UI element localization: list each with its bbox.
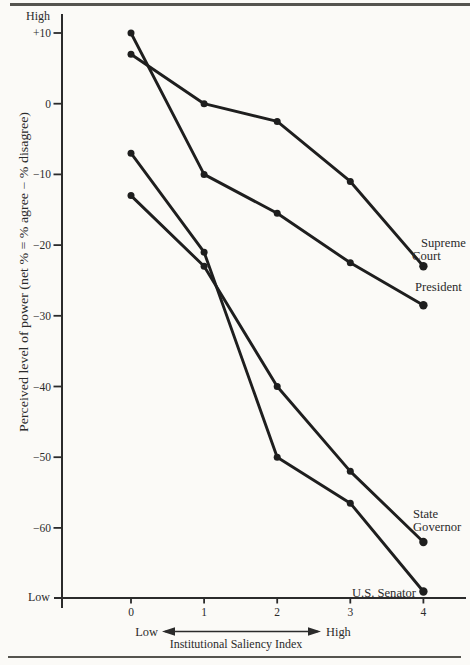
line-chart: +100−10−20−30−40−50−60 01234 High Low Pe… — [0, 0, 470, 665]
data-point-supreme-court-x0 — [128, 51, 135, 58]
data-point-us-senator-x4 — [419, 587, 427, 595]
y-axis-title: Perceived level of power (net % = % agre… — [18, 112, 31, 432]
data-point-supreme-court-x2 — [274, 118, 281, 125]
data-point-president-x1 — [201, 171, 208, 178]
data-point-president-x3 — [347, 259, 354, 266]
x-arrow-high-label: High — [326, 625, 352, 639]
y-tick-label: 0 — [45, 98, 51, 110]
data-point-president-x2 — [274, 210, 281, 217]
series-label-president: President — [415, 280, 462, 294]
series-line-supreme-court — [131, 54, 423, 266]
series-line-state-governor — [131, 196, 423, 542]
series-label-state-governor: Governor — [413, 520, 462, 534]
data-point-state-governor-x4 — [419, 538, 427, 546]
x-arrow-low-label: Low — [135, 625, 158, 639]
series-label-supreme-court: Court — [412, 249, 441, 263]
series-label-state-governor: State — [413, 507, 439, 521]
scanned-figure-page: +100−10−20−30−40−50−60 01234 High Low Pe… — [0, 0, 470, 665]
y-tick-label: −30 — [33, 310, 51, 322]
y-tick-label: −60 — [33, 522, 51, 534]
data-point-state-governor-x3 — [347, 468, 354, 475]
data-point-us-senator-x1 — [201, 249, 208, 256]
y-tick-label: −10 — [33, 168, 51, 180]
data-point-supreme-court-x4 — [419, 262, 427, 270]
x-tick-label: 3 — [347, 606, 353, 618]
data-point-us-senator-x2 — [274, 454, 281, 461]
x-tick-label: 2 — [274, 606, 280, 618]
series-state-governor: StateGovernor — [128, 192, 463, 546]
y-axis-high-label: High — [26, 9, 50, 23]
series-label-us-senator: U.S. Senator — [352, 586, 417, 600]
data-point-state-governor-x2 — [274, 383, 281, 390]
data-point-supreme-court-x1 — [201, 100, 208, 107]
data-point-president-x4 — [419, 301, 427, 309]
series-label-supreme-court: Supreme — [421, 236, 466, 250]
right-arrowhead-icon — [308, 627, 321, 635]
data-point-us-senator-x0 — [128, 150, 135, 157]
y-tick-label: +10 — [33, 27, 51, 39]
series-supreme-court: SupremeCourt — [128, 51, 467, 271]
data-series-layer: SupremeCourtPresidentStateGovernorU.S. S… — [128, 30, 467, 601]
series-president: President — [128, 30, 463, 310]
x-tick-label: 1 — [201, 606, 207, 618]
series-line-us-senator — [131, 153, 423, 591]
x-tick-label: 0 — [128, 606, 134, 618]
x-axis-ticks: 01234 — [128, 598, 426, 618]
x-axis-title: Institutional Saliency Index — [170, 637, 303, 651]
data-point-supreme-court-x3 — [347, 178, 354, 185]
y-tick-label: −50 — [33, 451, 51, 463]
series-line-president — [131, 33, 423, 305]
y-axis-ticks: +100−10−20−30−40−50−60 — [33, 27, 62, 534]
data-point-state-governor-x0 — [128, 192, 135, 199]
y-tick-label: −20 — [33, 239, 51, 251]
data-point-president-x0 — [128, 30, 135, 37]
x-tick-label: 4 — [421, 606, 427, 618]
data-point-us-senator-x3 — [347, 500, 354, 507]
y-tick-label: −40 — [33, 381, 51, 393]
left-arrowhead-icon — [162, 627, 175, 635]
data-point-state-governor-x1 — [201, 263, 208, 270]
y-axis-low-label: Low — [28, 590, 50, 604]
